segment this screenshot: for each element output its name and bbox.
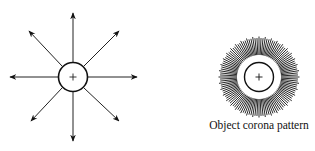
arrow-down-left <box>31 88 62 121</box>
corona-ray <box>281 78 298 79</box>
arrow-down-right <box>84 88 119 121</box>
corona-pattern-diagram <box>219 37 300 118</box>
arrow-up-left <box>29 31 62 66</box>
arrow-up-right <box>84 31 119 66</box>
corona-ray <box>220 75 237 76</box>
field-lines-diagram <box>10 13 137 141</box>
corona-ray <box>257 99 258 116</box>
corona-ray <box>257 38 258 55</box>
corona-ray <box>260 99 261 116</box>
corona-caption: Object corona pattern <box>200 119 315 131</box>
corona-ray <box>220 78 237 79</box>
corona-ray <box>260 38 261 55</box>
corona-ray <box>281 75 298 76</box>
